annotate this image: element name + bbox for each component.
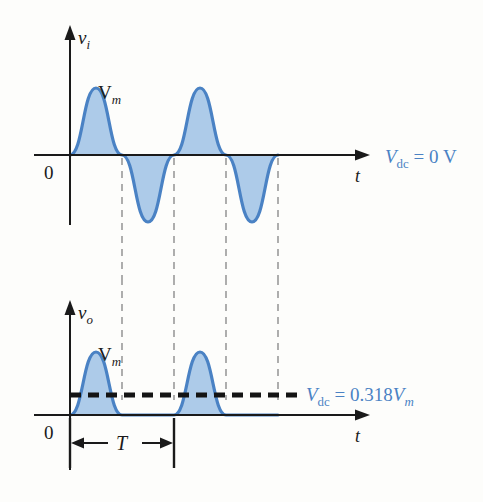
top-x-axis-arrow — [355, 150, 370, 161]
top-dc-annotation: Vdc = 0 V — [385, 146, 457, 171]
bottom-x-axis-label: t — [355, 426, 361, 446]
waveform-figure: vi Vm 0 t Vdc = 0 V vo Vm 0 T t Vdc = 0. — [0, 0, 483, 502]
bottom-dc-annotation: Vdc = 0.318Vm — [306, 384, 414, 409]
top-origin-label: 0 — [44, 162, 54, 183]
figure-root: vi Vm 0 t Vdc = 0 V vo Vm 0 T t Vdc = 0. — [0, 0, 483, 502]
period-arrow-head-left — [71, 438, 84, 449]
bottom-origin-label: 0 — [44, 422, 54, 443]
bottom-x-axis-arrow — [355, 410, 370, 421]
top-y-axis-label: vi — [78, 27, 90, 52]
period-arrow-head-right — [160, 438, 173, 449]
top-x-axis-label: t — [355, 166, 361, 186]
top-y-axis-arrow — [65, 25, 76, 40]
period-label: T — [116, 432, 129, 454]
bottom-y-axis-arrow — [65, 300, 76, 315]
bottom-y-axis-label: vo — [78, 302, 93, 327]
